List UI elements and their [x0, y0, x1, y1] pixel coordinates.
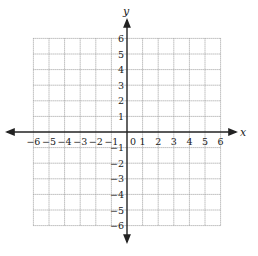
y-tick-label: 2: [118, 95, 124, 106]
y-tick-label: 3: [118, 80, 124, 91]
y-tick-label: −6: [110, 220, 124, 231]
x-tick-label: −6: [26, 136, 40, 147]
x-tick-label: −5: [42, 136, 56, 147]
y-axis-label: y: [122, 5, 130, 18]
y-tick-label: 4: [118, 64, 124, 75]
x-tick-label: 3: [171, 136, 177, 147]
x-tick-label: −2: [89, 136, 103, 147]
x-tick-label: −4: [58, 136, 72, 147]
y-tick-label: 5: [118, 49, 124, 60]
y-tick-label: −5: [110, 205, 124, 216]
y-tick-label: −3: [110, 173, 124, 184]
coordinate-plane: −6−5−4−3−2−10123456 654321−1−2−3−4−5−6 x…: [0, 0, 258, 256]
coordinate-grid-svg: −6−5−4−3−2−10123456 654321−1−2−3−4−5−6 x…: [0, 0, 258, 256]
y-tick-label: −4: [110, 189, 124, 200]
y-tick-label: 6: [118, 33, 124, 44]
y-tick-label: −1: [110, 142, 124, 153]
x-axis-label: x: [240, 126, 247, 139]
x-tick-label: −3: [73, 136, 87, 147]
x-tick-label: 4: [186, 136, 192, 147]
y-tick-label: −2: [110, 158, 124, 169]
x-tick-labels: −6−5−4−3−2−10123456: [26, 136, 223, 147]
x-tick-label: 2: [155, 136, 161, 147]
x-tick-label: 0: [130, 136, 136, 147]
x-tick-label: 1: [140, 136, 146, 147]
x-tick-label: 6: [218, 136, 224, 147]
y-tick-label: 1: [118, 111, 124, 122]
x-tick-label: 5: [202, 136, 208, 147]
